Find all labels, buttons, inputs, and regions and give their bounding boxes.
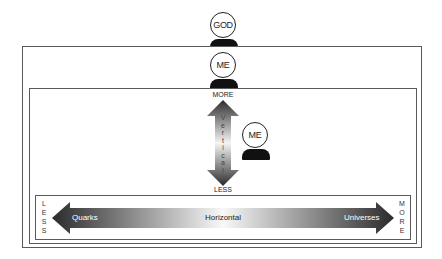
less-letter: S — [40, 226, 48, 235]
more-letter: R — [398, 217, 406, 226]
horizontal-less-label: LESS — [40, 199, 48, 235]
vertical-letter: V — [219, 114, 227, 122]
vertical-axis-name: Vertical — [219, 114, 227, 174]
me-head-icon: ME — [242, 122, 268, 148]
less-letter: S — [40, 217, 48, 226]
more-letter: M — [398, 199, 406, 208]
more-letter: O — [398, 208, 406, 217]
horizontal-more-label: MORE — [398, 199, 406, 235]
horizontal-axis-name: Horizontal — [205, 213, 241, 222]
god-label: GOD — [213, 20, 233, 30]
me-body-icon — [242, 149, 270, 160]
vertical-letter: e — [219, 122, 227, 130]
vertical-letter: a — [219, 159, 227, 167]
vertical-letter: i — [219, 144, 227, 152]
me-figure-inner: ME — [239, 122, 273, 162]
god-head-icon: GOD — [210, 12, 236, 38]
vertical-letter: r — [219, 129, 227, 137]
me-figure-outer: ME — [207, 52, 241, 92]
vertical-letter: l — [219, 167, 227, 175]
me-label-inner: ME — [249, 130, 262, 140]
vertical-bottom-label: LESS — [208, 186, 238, 193]
universes-label: Universes — [344, 213, 380, 222]
vertical-top-label: MORE — [208, 91, 238, 98]
me-head-icon: ME — [210, 52, 236, 78]
less-letter: E — [40, 208, 48, 217]
less-letter: L — [40, 199, 48, 208]
more-letter: E — [398, 226, 406, 235]
vertical-letter: t — [219, 137, 227, 145]
vertical-letter: c — [219, 152, 227, 160]
me-label-outer: ME — [217, 60, 230, 70]
quarks-label: Quarks — [72, 213, 98, 222]
